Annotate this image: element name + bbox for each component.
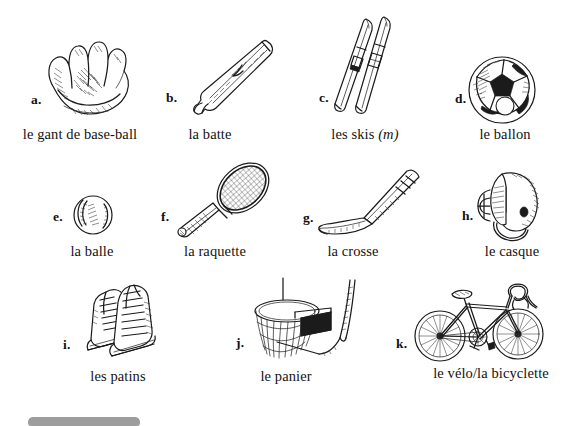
item-marker: e. [53,209,63,225]
item-marker: k. [396,336,407,352]
item-marker: c. [319,90,329,106]
item-caption: la balle [42,243,142,260]
item-caption: les patins [58,368,178,385]
football-helmet-illustration [472,168,546,244]
item-marker: i. [63,337,71,353]
baseball-bat-illustration [180,32,280,122]
basketball-hoop-illustration [245,278,365,364]
skis-illustration [322,16,418,116]
item-caption: le ballon [450,126,560,143]
item-marker: h. [462,208,473,224]
item-marker: g. [303,210,314,226]
baseball-glove-illustration [36,28,140,120]
item-marker: a. [31,92,42,108]
item-caption: la raquette [150,243,280,260]
tennis-racket-illustration [175,162,283,242]
soccer-ball-illustration [464,52,540,128]
item-marker: j. [236,335,244,351]
item-caption: les skis [331,126,378,142]
item-caption-skis: les skis (m) [300,126,430,143]
item-gender: (m) [378,126,398,142]
item-caption: le vélo/la bicyclette [406,365,571,382]
item-caption: la crosse [293,243,413,260]
item-caption: la batte [155,126,265,143]
item-marker: f. [161,209,169,225]
item-marker: b. [166,90,177,106]
item-caption: le gant de base-ball [0,126,160,143]
baseball-illustration [70,192,116,238]
item-caption: le panier [226,368,346,385]
hockey-stick-illustration [315,168,425,238]
bicycle-illustration [408,280,548,364]
bottom-grey-bar[interactable] [28,417,140,426]
item-marker: d. [455,91,466,107]
ice-skates-illustration [78,282,174,362]
item-caption: le casque [452,243,571,260]
